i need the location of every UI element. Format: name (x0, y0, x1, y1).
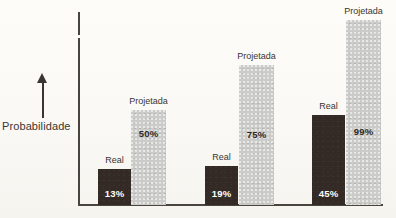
bar-value-label: 45% (312, 188, 345, 199)
bar-real-3: Real 45% (312, 115, 345, 205)
bar-caption: Projetada (334, 6, 393, 16)
bar-caption: Projetada (119, 96, 178, 106)
bar-caption: Projetada (227, 51, 286, 61)
bar-value-label: 50% (131, 128, 166, 139)
bar-real-1: Real 13% (98, 169, 131, 205)
bar-value-label: 99% (346, 126, 381, 137)
bar-projetada-1: Projetada 50% (131, 110, 166, 205)
bar-projetada-2: Projetada 75% (239, 65, 274, 205)
bar-value-label: 19% (205, 188, 238, 199)
bar-chart-figure: Probabilidade Real 13% Projetada 50% Rea… (0, 0, 396, 218)
bar-value-label: 75% (239, 129, 274, 140)
bar-real-2: Real 19% (205, 166, 238, 205)
bar-value-label: 13% (98, 188, 131, 199)
plot-area: Real 13% Projetada 50% Real 19% Projetad… (0, 0, 396, 218)
bar-projetada-3: Projetada 99% (346, 20, 381, 205)
